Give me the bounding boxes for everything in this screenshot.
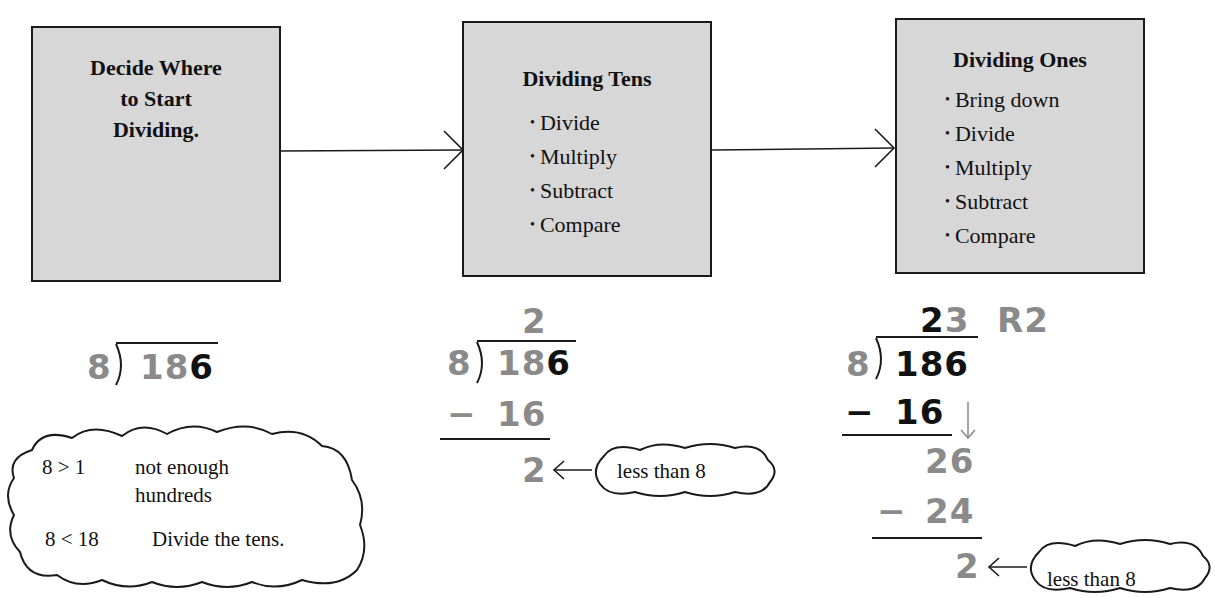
subtraction-rule (440, 438, 550, 440)
quotient: 23 (920, 302, 969, 338)
callout-text: less than 8 (1047, 566, 1136, 592)
title-line: Dividing. (33, 114, 279, 145)
remainder: 2 (955, 548, 980, 584)
left-arrow-icon (987, 555, 1029, 579)
callout-text: less than 8 (617, 458, 706, 484)
cloud-row1-right: not enough (135, 454, 229, 480)
flow-arrow-icon (712, 128, 897, 168)
divisor: 8 (447, 345, 472, 381)
product: 16 (497, 396, 546, 432)
dividend-gray-digits: 18 (140, 347, 189, 387)
divisor: 8 (87, 349, 112, 385)
product-1: 16 (895, 394, 944, 430)
step-box-dividing-tens: Dividing Tens Divide Multiply Subtract C… (462, 21, 712, 277)
cloud-row1-right2: hundreds (135, 482, 212, 508)
dividend: 186 (895, 346, 969, 382)
dividend-black-digit: 6 (189, 347, 214, 387)
step-item: Compare (530, 209, 710, 243)
step-title: Dividing Tens (464, 63, 710, 94)
subtraction-rule (842, 434, 952, 436)
dividend: 186 (497, 345, 571, 381)
subtraction-rule (872, 537, 982, 539)
flow-arrow-icon (281, 130, 466, 170)
remainder: 2 (522, 452, 547, 488)
step-item: Bring down (945, 84, 1143, 118)
minus-sign: − (447, 396, 477, 432)
dividend-black-digit: 6 (546, 343, 571, 383)
quotient: 2 (522, 303, 547, 339)
step-item: Subtract (530, 175, 710, 209)
cloud-row2-left: 8 < 18 (45, 526, 99, 552)
cloud-row2-right: Divide the tens. (152, 526, 284, 552)
step-box-decide-where: Decide Where to Start Dividing. (31, 26, 281, 282)
remainder-label: R2 (997, 302, 1049, 338)
minus-sign: − (877, 493, 907, 529)
step-list: Divide Multiply Subtract Compare (530, 107, 710, 243)
product-2: 24 (925, 493, 974, 529)
bring-down-value: 26 (925, 443, 974, 479)
bring-down-arrow-icon (958, 400, 978, 442)
step-list: Bring down Divide Multiply Subtract Comp… (945, 84, 1143, 254)
dividend: 186 (140, 349, 214, 385)
minus-sign: − (845, 394, 875, 430)
step-item: Compare (945, 220, 1143, 254)
step-item: Divide (945, 118, 1143, 152)
step-title: Decide Where to Start Dividing. (33, 52, 279, 145)
title-line: to Start (33, 83, 279, 114)
left-arrow-icon (552, 458, 594, 482)
step-box-dividing-ones: Dividing Ones Bring down Divide Multiply… (895, 18, 1145, 274)
step-title: Dividing Ones (897, 44, 1143, 75)
dividend-gray-digits: 18 (497, 343, 546, 383)
divisor: 8 (846, 346, 871, 382)
cloud-row1-left: 8 > 1 (42, 454, 85, 480)
step-item: Multiply (530, 141, 710, 175)
step-item: Multiply (945, 152, 1143, 186)
title-line: Decide Where (33, 52, 279, 83)
step-item: Subtract (945, 186, 1143, 220)
step-item: Divide (530, 107, 710, 141)
